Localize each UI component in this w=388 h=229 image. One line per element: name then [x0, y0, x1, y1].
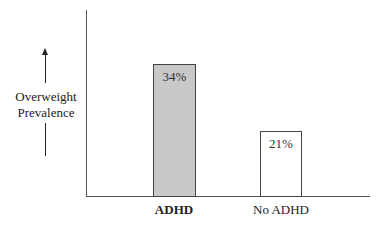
bar-no-adhd: 21% — [260, 131, 302, 197]
y-axis-label-line2: Prevalence — [0, 105, 92, 121]
bar-value-label: 34% — [154, 69, 195, 85]
bar-value-label: 21% — [261, 136, 301, 152]
arrow-shaft-lower — [45, 123, 46, 156]
arrow-shaft-upper — [45, 50, 46, 83]
bar-adhd: 34% — [153, 64, 196, 197]
y-axis-label-line1: Overweight — [0, 89, 92, 105]
category-label-no-adhd: No ADHD — [241, 202, 321, 218]
category-label-adhd: ADHD — [134, 202, 214, 218]
y-axis-label: Overweight Prevalence — [0, 89, 92, 121]
x-axis-line — [86, 196, 370, 197]
